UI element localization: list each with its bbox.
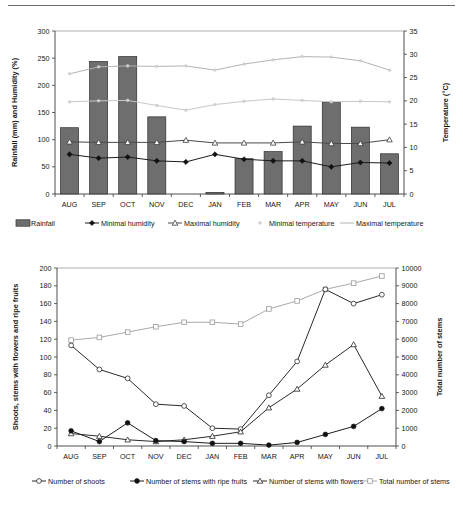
chart-text: 5000 [402, 353, 418, 362]
legend-item: Number of stems with ripe fruits [130, 477, 247, 486]
chart-text: Rainfall [31, 219, 55, 228]
chart-text: FEB [234, 452, 248, 461]
data-point [330, 100, 333, 103]
chart-text: Temperature (°C) [441, 82, 450, 142]
chart-text: 150 [38, 108, 50, 117]
legend-item: Maximal temperature [340, 219, 424, 228]
chart-text: 140 [40, 317, 52, 326]
data-point [135, 479, 140, 484]
data-point [379, 406, 384, 411]
chart-text: 25 [410, 73, 418, 82]
data-point [97, 439, 102, 444]
chart-text: Shoots, stems with flowers and ripe frui… [11, 284, 20, 431]
chart-text: 35 [410, 27, 418, 36]
chart-text: SEP [92, 452, 107, 461]
chart-text: 1000 [402, 424, 418, 433]
legend-swatch-rainfall [16, 220, 30, 226]
bar-rainfall [148, 117, 166, 194]
data-point [155, 65, 158, 68]
chart-text: Number of stems with flowers [269, 477, 364, 486]
bar-rainfall [235, 159, 253, 194]
data-point [182, 404, 187, 409]
chart-text: 3000 [402, 388, 418, 397]
chart-text: OCT [120, 452, 136, 461]
data-point [267, 307, 272, 312]
chart-text: JAN [208, 200, 222, 209]
data-point [243, 63, 246, 66]
data-point [68, 72, 71, 75]
bar-rainfall [206, 192, 224, 194]
chart-text: APR [290, 452, 305, 461]
data-point [238, 441, 243, 446]
chart-text: 80 [44, 370, 52, 379]
series-line [70, 99, 390, 110]
chart-text: 100 [38, 135, 50, 144]
data-point [301, 55, 304, 58]
series-line [71, 345, 382, 442]
data-point [388, 100, 391, 103]
legend-item: Number of stems with flowers [253, 477, 364, 486]
data-point [126, 65, 129, 68]
chart-text: NOV [148, 452, 164, 461]
data-point [295, 440, 300, 445]
bar-rainfall [322, 102, 340, 194]
data-point [323, 362, 329, 367]
data-point [379, 393, 385, 398]
data-point [125, 376, 130, 381]
data-point [323, 287, 328, 292]
phenology-chart: 0204060801001201401601802000100020003000… [0, 256, 463, 506]
data-point [212, 152, 217, 157]
climate-plot: 05010015020025030005101520253035AUGSEPOC… [10, 27, 450, 209]
chart-text: 10000 [402, 264, 422, 273]
chart-text: 300 [38, 27, 50, 36]
chart-text: 4000 [402, 370, 418, 379]
chart-text: JUL [383, 200, 396, 209]
data-point [243, 100, 246, 103]
data-point [323, 432, 328, 437]
data-point [69, 343, 74, 348]
series-minimal-temperature [68, 98, 391, 112]
data-point [272, 98, 275, 101]
chart-text: 20 [44, 424, 52, 433]
data-point [97, 367, 102, 372]
chart-text: 0 [48, 442, 52, 451]
chart-text: 20 [410, 96, 418, 105]
series-line [71, 409, 382, 445]
chart-text: AUG [63, 452, 79, 461]
chart-text: 6000 [402, 335, 418, 344]
legend-item: Minimal humidity [85, 219, 155, 228]
data-point [351, 342, 357, 347]
data-point [184, 109, 187, 112]
data-point [295, 299, 300, 304]
data-point [125, 330, 130, 335]
data-point [97, 335, 102, 340]
chart-text: 9000 [402, 281, 418, 290]
bar-rainfall [90, 61, 108, 194]
data-point [153, 438, 158, 443]
chart-text: Maximal humidity [184, 219, 240, 228]
chart-text: 5 [410, 166, 414, 175]
phenology-legend: Number of shootsNumber of stems with rip… [32, 477, 450, 486]
bar-rainfall [380, 154, 398, 194]
data-point [210, 441, 215, 446]
phenology-plot: 0204060801001201401601802000100020003000… [11, 264, 444, 461]
chart-text: Number of shoots [48, 477, 105, 486]
chart-text: MAR [265, 200, 281, 209]
data-point [266, 443, 271, 448]
chart-text: 100 [40, 353, 52, 362]
data-point [379, 292, 384, 297]
data-point [272, 58, 275, 61]
chart-text: Rainfall (mm) and Humidity (%) [10, 57, 19, 167]
chart-text: SEP [91, 200, 106, 209]
chart-text: JUN [353, 200, 367, 209]
series-minimal-humidity [67, 152, 392, 170]
chart-text: Number of stems with ripe fruits [146, 477, 247, 486]
chart-text: 200 [38, 81, 50, 90]
series-line [71, 289, 382, 429]
data-point [210, 320, 215, 325]
chart-text: JAN [206, 452, 220, 461]
chart-text: 200 [40, 264, 52, 273]
chart-text: 160 [40, 299, 52, 308]
series-number-of-stems-with-ripe-fruits [69, 406, 385, 447]
climate-chart: 05010015020025030005101520253035AUGSEPOC… [0, 18, 463, 246]
